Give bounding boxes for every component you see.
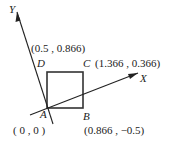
point-b-label: B bbox=[83, 111, 90, 122]
x-axis-label: X bbox=[140, 73, 147, 84]
point-d-coords: (0.5 , 0.866) bbox=[31, 43, 85, 54]
square-abcd bbox=[47, 72, 83, 108]
point-b-coords: (0.866 , −0.5) bbox=[84, 125, 144, 136]
point-d-label: D bbox=[37, 58, 45, 69]
y-axis-label: Y bbox=[9, 4, 15, 15]
point-a-coords: ( 0 , 0 ) bbox=[13, 125, 45, 136]
point-a-label: A bbox=[40, 109, 47, 120]
rotated-axes-diagram: Y X D C A B (0.5 , 0.866) (1.366 , 0.366… bbox=[0, 0, 176, 148]
point-c-label: C bbox=[83, 58, 90, 69]
point-c-coords: (1.366 , 0.366) bbox=[95, 58, 160, 69]
x-axis-arrow-icon bbox=[128, 73, 138, 79]
y-axis-line bbox=[17, 12, 53, 124]
